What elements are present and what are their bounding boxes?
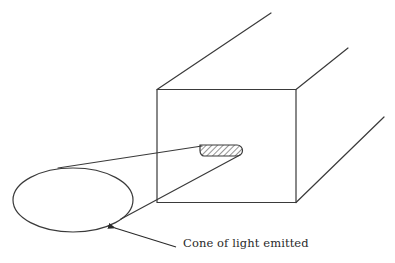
emitting-slot: [200, 145, 243, 156]
diagram-caption: Cone of light emitted: [183, 236, 309, 250]
cone-line-lower: [121, 155, 240, 219]
block-edge-bottom-right: [296, 117, 384, 203]
block-edge-top-left: [157, 13, 271, 90]
block-edge-top-right: [296, 48, 348, 90]
caption-arrow: [115, 228, 176, 247]
light-emission-diagram: [0, 0, 395, 263]
beam-ellipse: [13, 168, 133, 232]
cone-line-upper: [58, 146, 202, 168]
